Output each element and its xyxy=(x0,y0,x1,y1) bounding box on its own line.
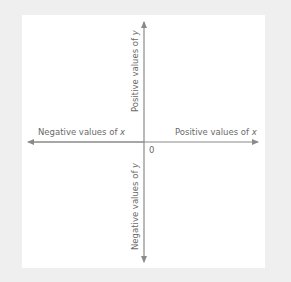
negative-x-label: Negative values of x xyxy=(38,128,125,137)
positive-x-label: Positive values of x xyxy=(175,128,257,137)
negative-y-label: Negative values of y xyxy=(131,163,140,250)
origin-label: 0 xyxy=(149,146,154,155)
axes xyxy=(0,0,291,282)
positive-y-label: Positive values of y xyxy=(131,30,140,112)
